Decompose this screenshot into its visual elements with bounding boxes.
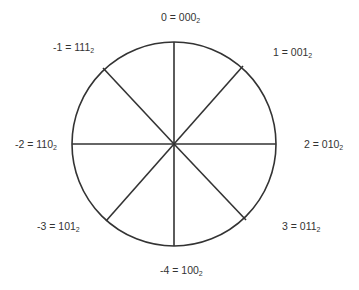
binary-value: 111 — [74, 41, 90, 53]
base-subscript: 2 — [196, 17, 200, 24]
label-3: 3 = 0112 — [282, 220, 320, 233]
label-7: -1 = 1112 — [53, 41, 94, 54]
binary-value: 000 — [179, 11, 197, 23]
base-subscript: 2 — [308, 52, 312, 59]
binary-value: 100 — [181, 264, 199, 276]
equals-sign: = — [288, 220, 300, 232]
label-1: 1 = 0012 — [273, 46, 312, 59]
binary-value: 010 — [322, 138, 340, 150]
spoke-neg3 — [106, 144, 174, 221]
binary-value: 110 — [36, 138, 53, 150]
base-subscript: 2 — [199, 270, 203, 277]
equals-sign: = — [46, 220, 58, 232]
decimal-value: -2 — [15, 138, 24, 150]
spoke-neg1 — [103, 68, 174, 144]
equals-sign: = — [167, 11, 179, 23]
base-subscript: 2 — [53, 144, 57, 151]
label-2: 2 = 0102 — [304, 138, 343, 151]
binary-value: 011 — [300, 220, 317, 232]
spoke-1 — [174, 66, 243, 144]
label-6: -2 = 1102 — [15, 138, 57, 151]
base-subscript: 2 — [317, 226, 321, 233]
base-subscript: 2 — [76, 226, 80, 233]
binary-value: 101 — [58, 220, 76, 232]
decimal-value: -1 — [53, 41, 62, 53]
equals-sign: = — [62, 41, 74, 53]
decimal-value: -3 — [37, 220, 46, 232]
equals-sign: = — [310, 138, 322, 150]
equals-sign: = — [279, 46, 291, 58]
decimal-value: -4 — [160, 264, 169, 276]
base-subscript: 2 — [339, 144, 343, 151]
label-4: -4 = 1002 — [160, 264, 203, 277]
label-5: -3 = 1012 — [37, 220, 80, 233]
base-subscript: 2 — [90, 47, 94, 54]
equals-sign: = — [24, 138, 36, 150]
spoke-3 — [174, 144, 246, 220]
label-0: 0 = 0002 — [161, 11, 200, 24]
binary-value: 001 — [291, 46, 309, 58]
equals-sign: = — [169, 264, 181, 276]
